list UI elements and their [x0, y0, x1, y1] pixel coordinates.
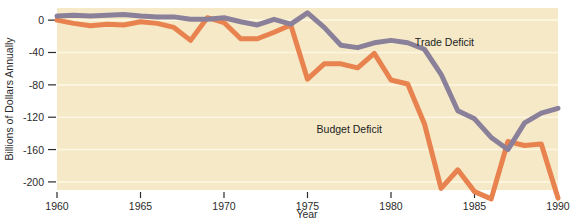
- y-tick-label: -120: [23, 111, 44, 123]
- x-tick-label: 1990: [546, 200, 570, 212]
- deficit-line-chart: 0-40-80-120-160-200 19601965197019751980…: [0, 0, 579, 224]
- y-tick-label: -200: [23, 176, 44, 188]
- x-tick-label: 1980: [379, 200, 403, 212]
- y-tick-label: -160: [23, 144, 44, 156]
- x-tick-label: 1985: [463, 200, 487, 212]
- x-axis-title: Year: [296, 208, 318, 220]
- annotation-budget-deficit: Budget Deficit: [317, 123, 382, 135]
- y-tick-label: 0: [38, 14, 44, 26]
- x-tick-label: 1970: [212, 200, 236, 212]
- x-tick-label: 1960: [45, 200, 69, 212]
- y-tick-label: -80: [29, 79, 44, 91]
- annotation-trade-deficit: Trade Deficit: [415, 36, 474, 48]
- x-tick-label: 1965: [129, 200, 153, 212]
- plot-area-background: [57, 8, 558, 190]
- chart-container: 0-40-80-120-160-200 19601965197019751980…: [0, 0, 579, 224]
- y-tick-label: -40: [29, 46, 44, 58]
- y-axis-title: Billions of Dollars Annually: [3, 37, 15, 161]
